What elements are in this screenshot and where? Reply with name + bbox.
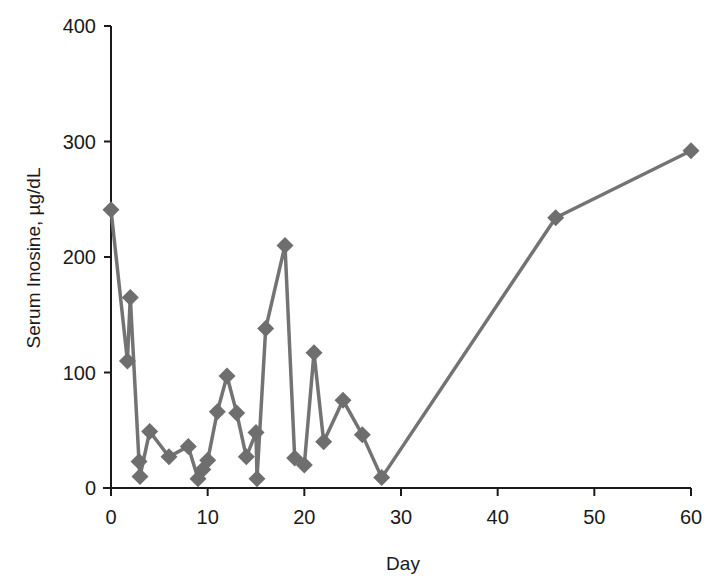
diamond-marker (306, 344, 323, 361)
diamond-marker (354, 426, 371, 443)
diamond-marker (257, 320, 274, 337)
y-tick-label: 0 (85, 477, 96, 499)
x-tick-label: 60 (680, 506, 702, 528)
diamond-marker (277, 237, 294, 254)
diamond-marker (335, 392, 352, 409)
diamond-marker (103, 201, 120, 218)
diamond-marker (219, 367, 236, 384)
diamond-marker (683, 142, 700, 159)
x-tick-label: 0 (105, 506, 116, 528)
diamond-marker (132, 468, 149, 485)
series-line (111, 151, 691, 479)
data-series (103, 142, 700, 487)
x-tick-label: 40 (487, 506, 509, 528)
y-axis: 0100200300400 (63, 15, 111, 499)
diamond-marker (248, 424, 265, 441)
diamond-marker (228, 404, 245, 421)
diamond-marker (248, 470, 265, 487)
diamond-marker (209, 403, 226, 420)
diamond-marker (238, 448, 255, 465)
y-tick-label: 300 (63, 131, 96, 153)
y-tick-label: 200 (63, 246, 96, 268)
x-axis: 0102030405060 (103, 488, 702, 528)
diamond-marker (315, 433, 332, 450)
y-axis-title: Serum Inosine, µg/dL (23, 168, 44, 349)
line-chart: 0100200300400 0102030405060 Day Serum In… (0, 0, 725, 586)
diamond-marker (180, 438, 197, 455)
y-tick-label: 100 (63, 362, 96, 384)
x-tick-label: 50 (583, 506, 605, 528)
x-axis-title: Day (386, 553, 420, 574)
y-tick-label: 400 (63, 15, 96, 37)
diamond-marker (122, 289, 139, 306)
x-tick-label: 20 (293, 506, 315, 528)
x-tick-label: 30 (390, 506, 412, 528)
x-tick-label: 10 (197, 506, 219, 528)
